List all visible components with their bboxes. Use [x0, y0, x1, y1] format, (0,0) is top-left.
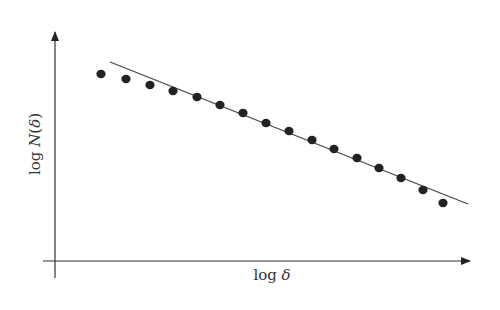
data-point [284, 127, 293, 135]
data-point [121, 75, 130, 83]
data-point [261, 119, 270, 127]
y-axis-label: log N(δ) [26, 113, 44, 175]
data-point [238, 109, 247, 117]
data-point [438, 199, 447, 207]
chart-figure: log δ log N(δ) [0, 0, 500, 310]
data-point [329, 145, 338, 153]
data-point [307, 136, 316, 144]
data-point [168, 87, 177, 95]
axes [43, 32, 470, 278]
data-point [418, 186, 427, 194]
data-point [352, 154, 361, 162]
data-points [96, 70, 447, 207]
data-point [215, 101, 224, 109]
x-axis-label: log δ [253, 266, 290, 284]
loglog-plot: log δ log N(δ) [0, 0, 500, 310]
data-point [192, 93, 201, 101]
data-point [374, 164, 383, 172]
data-point [96, 70, 105, 78]
data-point [396, 174, 405, 182]
data-point [145, 81, 154, 89]
